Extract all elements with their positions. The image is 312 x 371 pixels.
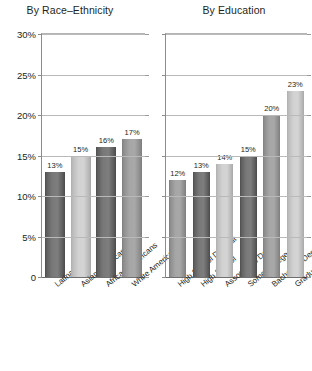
panel-title-education: By Education [154, 4, 312, 16]
y-axis-tick-right [307, 115, 311, 116]
gridline [42, 34, 145, 35]
gridline [166, 237, 307, 238]
gridline [166, 75, 307, 76]
bar-value-label: 15% [241, 145, 256, 154]
y-axis-tick [38, 34, 42, 35]
bar-value-label: 15% [73, 145, 88, 154]
gridline [42, 115, 145, 116]
y-axis-tick-right [145, 75, 149, 76]
y-axis-tick-label: 10% [17, 191, 36, 202]
bar-value-label: 13% [194, 161, 209, 170]
y-axis-tick-right [307, 237, 311, 238]
bar[interactable]: 13% [45, 172, 65, 277]
y-axis-tick-right [145, 34, 149, 35]
gridline [42, 75, 145, 76]
bar-value-label: 14% [217, 153, 232, 162]
gridline [166, 196, 307, 197]
bar[interactable]: 17% [122, 139, 142, 277]
y-axis-tick-right [307, 196, 311, 197]
bar[interactable]: 15% [71, 156, 91, 278]
y-axis-tick-right [307, 277, 311, 278]
y-axis-tick-label: 30% [17, 29, 36, 40]
bar-value-label: 17% [125, 128, 140, 137]
gridline [42, 156, 145, 157]
bar-value-label: 20% [264, 104, 279, 113]
y-axis-tick [38, 277, 42, 278]
y-axis-tick [38, 75, 42, 76]
y-axis-tick [38, 196, 42, 197]
plot-area-race-ethnicity: 13%Latinas15%Asian Americans16%African A… [41, 33, 145, 278]
two-panel-bar-chart-figure: By Race–Ethnicity 13%Latinas15%Asian Ame… [0, 0, 312, 371]
y-axis-tick-right [145, 156, 149, 157]
bar[interactable]: 15% [240, 156, 257, 278]
y-axis-tick [162, 277, 166, 278]
y-axis-tick [38, 156, 42, 157]
bar[interactable]: 16% [96, 147, 116, 277]
y-axis-tick [162, 237, 166, 238]
bar-value-label: 16% [99, 136, 114, 145]
bar[interactable]: 23% [287, 91, 304, 277]
gridline [166, 156, 307, 157]
y-axis-tick-label: 20% [17, 110, 36, 121]
y-axis-tick-label: 15% [17, 150, 36, 161]
gridline [166, 34, 307, 35]
y-axis-tick-right [145, 277, 149, 278]
y-axis-tick-right [145, 237, 149, 238]
gridline [42, 196, 145, 197]
y-axis-tick [162, 75, 166, 76]
gridline [42, 237, 145, 238]
y-axis-tick [162, 156, 166, 157]
y-axis-tick [162, 196, 166, 197]
panel-title-race-ethnicity: By Race–Ethnicity [0, 4, 146, 16]
bar[interactable]: 13% [193, 172, 210, 277]
y-axis-tick-label: 5% [22, 231, 36, 242]
bar[interactable]: 12% [169, 180, 186, 277]
bar-value-label: 12% [170, 169, 185, 178]
gridline [166, 115, 307, 116]
plot-area-education: 12%High School Dropout13%High School14%A… [165, 33, 307, 278]
y-axis-tick [38, 115, 42, 116]
y-axis-tick-right [145, 196, 149, 197]
y-axis-tick-label: 25% [17, 69, 36, 80]
y-axis-tick [162, 34, 166, 35]
bar-value-label: 13% [47, 161, 62, 170]
y-axis-tick-right [307, 75, 311, 76]
y-axis-tick-right [307, 34, 311, 35]
y-axis-tick-label: 0 [31, 272, 36, 283]
y-axis-tick [162, 115, 166, 116]
bar[interactable]: 14% [216, 164, 233, 277]
y-axis-tick-right [145, 115, 149, 116]
bar-value-label: 23% [288, 80, 303, 89]
y-axis-tick-right [307, 156, 311, 157]
y-axis-tick [38, 237, 42, 238]
